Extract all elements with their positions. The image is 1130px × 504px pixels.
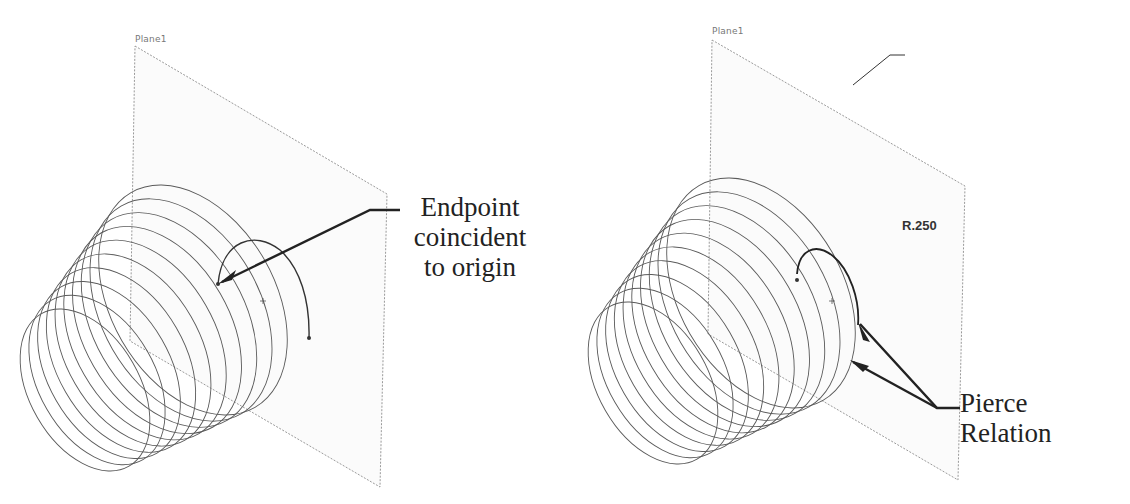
plane-label: Plane1 bbox=[712, 26, 744, 36]
left-panel: Plane1 Endpoint coincident to origin bbox=[0, 0, 565, 504]
plane-label: Plane1 bbox=[135, 34, 167, 44]
callout-line: Pierce bbox=[960, 388, 1070, 418]
callout-pierce: Pierce Relation bbox=[960, 388, 1070, 448]
right-panel: Plane1 R.250 Pierce Relation bbox=[565, 0, 1130, 504]
callout-line: coincident bbox=[400, 222, 540, 252]
dimension-radius: R.250 bbox=[902, 218, 937, 233]
callout-line: to origin bbox=[400, 252, 540, 282]
callout-line: Relation bbox=[960, 418, 1070, 448]
callout-endpoint: Endpoint coincident to origin bbox=[400, 192, 540, 282]
plane-outline bbox=[130, 46, 387, 487]
callout-line: Endpoint bbox=[400, 192, 540, 222]
dimension-leader bbox=[853, 55, 905, 85]
